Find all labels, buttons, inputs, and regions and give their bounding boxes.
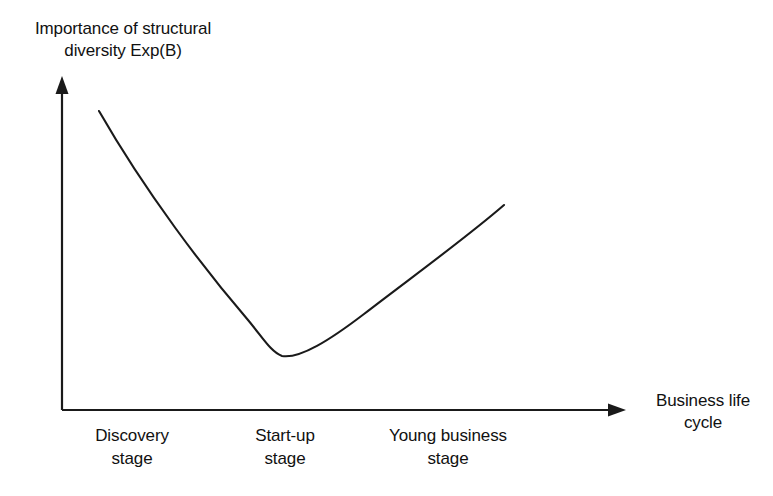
- y-axis-arrow-icon: [56, 76, 69, 94]
- x-axis-title-line-2: cycle: [684, 413, 722, 432]
- data-curve-importance: [99, 111, 504, 356]
- x-tick-label-discovery-stage-line-1: Discovery: [95, 426, 169, 445]
- x-tick-label-discovery-stage-line-2: stage: [111, 449, 152, 468]
- x-axis-title: Business lifecycle: [638, 390, 768, 434]
- x-axis-title-line-1: Business life: [656, 391, 750, 410]
- y-axis-title: Importance of structuraldiversity Exp(B): [8, 18, 238, 62]
- x-tick-label-start-up-stage-line-1: Start-up: [255, 426, 315, 445]
- x-tick-label-young-business-stage: Young businessstage: [362, 424, 534, 470]
- x-tick-label-young-business-stage-line-2: stage: [427, 449, 468, 468]
- x-tick-label-discovery-stage: Discoverystage: [62, 424, 202, 470]
- chart-figure: Importance of structuraldiversity Exp(B)…: [0, 0, 773, 496]
- x-tick-label-start-up-stage: Start-upstage: [215, 424, 355, 470]
- x-tick-label-young-business-stage-line-1: Young business: [389, 426, 507, 445]
- y-axis-title-line-1: Importance of structural: [35, 19, 211, 38]
- y-axis-title-line-2: diversity Exp(B): [64, 41, 181, 60]
- x-axis-arrow-icon: [608, 404, 626, 417]
- x-tick-label-start-up-stage-line-2: stage: [264, 449, 305, 468]
